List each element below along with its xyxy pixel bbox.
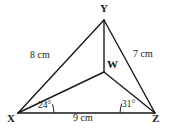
vertex-label-z: Z: [152, 113, 159, 124]
segment-xy: [18, 20, 104, 113]
triangle-figure: [0, 0, 172, 130]
geometry-diagram: Y X Z W 8 cm 7 cm 9 cm 24° 31°: [0, 0, 172, 130]
vertex-label-x: X: [7, 113, 15, 124]
angle-arc-x: [53, 104, 55, 113]
side-label-xy: 8 cm: [30, 50, 50, 60]
vertex-label-w: W: [107, 59, 118, 70]
angle-label-z: 31°: [122, 100, 135, 110]
side-label-yz: 7 cm: [133, 49, 153, 59]
vertex-label-y: Y: [100, 3, 108, 14]
side-label-xz: 9 cm: [73, 113, 93, 123]
segment-xw: [18, 72, 104, 113]
angle-label-x: 24°: [38, 101, 51, 111]
